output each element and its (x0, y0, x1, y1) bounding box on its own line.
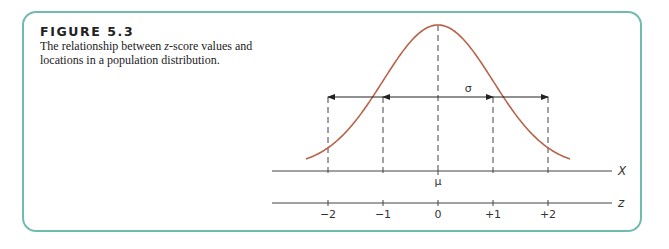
x-axis-label: X (617, 164, 627, 178)
mean-label: μ (435, 175, 442, 188)
z-tick-label: −1 (375, 208, 391, 221)
z-tick-label: +2 (540, 208, 556, 221)
z-axis-label: z (617, 196, 625, 210)
guide-lines (328, 25, 548, 175)
sigma-label: σ (465, 82, 472, 95)
z-tick-label: +1 (485, 208, 501, 221)
z-tick-label: −2 (320, 208, 336, 221)
z-tick-label: 0 (435, 208, 442, 221)
normal-distribution-diagram: −2−10+1+2 X z μ σ (0, 0, 669, 249)
